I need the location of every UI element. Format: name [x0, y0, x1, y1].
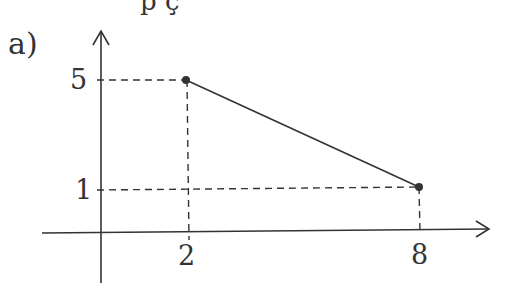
graph: 5 1 2 8 [0, 0, 507, 292]
data-point-8-1 [415, 183, 423, 191]
data-line [186, 80, 419, 187]
data-point-2-5 [182, 76, 190, 84]
y-tick-1: 1 [75, 174, 92, 205]
y-tick-5: 5 [70, 64, 87, 95]
x-axis [42, 229, 489, 233]
projection-guides [97, 80, 420, 240]
x-tick-8: 8 [411, 239, 428, 270]
x-tick-2: 2 [178, 240, 195, 271]
